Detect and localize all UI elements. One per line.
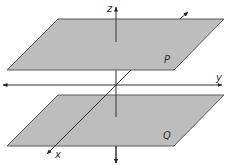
plane-p-label: P bbox=[164, 54, 171, 65]
x-axis-upper bbox=[116, 70, 131, 85]
z-axis-label: z bbox=[106, 3, 113, 14]
parallel-planes-diagram: z P y Q x bbox=[0, 0, 226, 165]
x-axis-label: x bbox=[54, 149, 61, 160]
plane-q-label: Q bbox=[163, 130, 171, 141]
y-axis-label: y bbox=[215, 72, 223, 83]
normal-arrow bbox=[180, 12, 188, 19]
